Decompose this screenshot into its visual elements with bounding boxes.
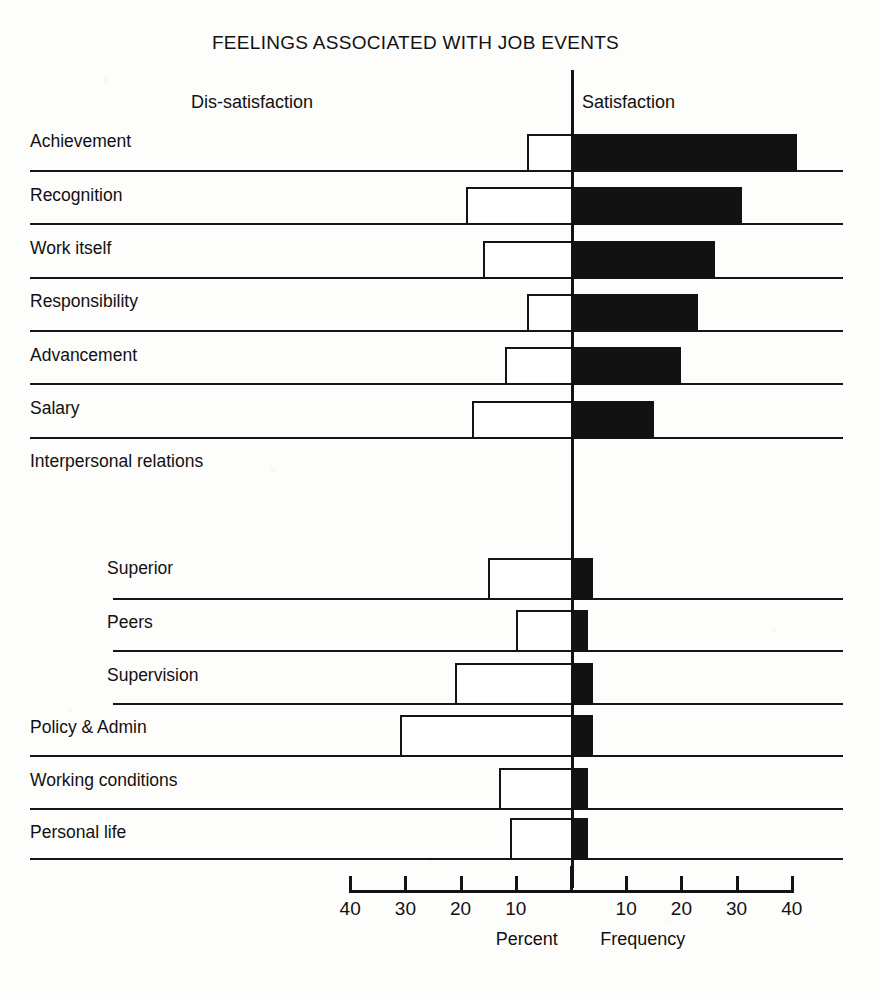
column-header-satisfaction: Satisfaction	[582, 92, 675, 113]
bar-dissatisfaction	[466, 187, 574, 225]
row-separator	[30, 808, 843, 810]
axis-tick-label: 40	[330, 898, 370, 920]
row-separator	[30, 437, 843, 439]
bar-dissatisfaction	[527, 294, 574, 332]
bar-satisfaction	[571, 294, 698, 332]
axis-tick-label: 40	[772, 898, 812, 920]
row-label-advancement: Advancement	[30, 345, 137, 366]
row-label-personal-life: Personal life	[30, 822, 126, 843]
axis-tick-label: 20	[441, 898, 481, 920]
bar-satisfaction	[571, 187, 742, 225]
bar-dissatisfaction	[455, 663, 574, 705]
bar-dissatisfaction	[510, 818, 574, 860]
axis-tick	[515, 876, 518, 893]
axis-tick-label: 10	[496, 898, 536, 920]
axis-tick	[625, 876, 628, 893]
x-axis-label-right: Frequency	[563, 929, 723, 950]
row-separator	[30, 277, 843, 279]
bar-satisfaction	[571, 347, 681, 385]
axis-tick	[349, 876, 352, 893]
bar-satisfaction	[571, 401, 654, 439]
bar-satisfaction	[571, 134, 797, 172]
bar-dissatisfaction	[505, 347, 574, 385]
axis-tick	[460, 876, 463, 893]
axis-tick	[680, 876, 683, 893]
row-label-achievement: Achievement	[30, 131, 131, 152]
bar-satisfaction	[571, 558, 593, 600]
bar-satisfaction	[571, 663, 593, 705]
axis-tick-label: 30	[385, 898, 425, 920]
row-separator	[30, 858, 843, 860]
axis-tick-label: 30	[717, 898, 757, 920]
axis-tick-label: 10	[606, 898, 646, 920]
bar-satisfaction	[571, 241, 715, 279]
axis-tick	[791, 876, 794, 893]
axis-tick-label: 20	[661, 898, 701, 920]
column-header-dissatisfaction: Dis-satisfaction	[191, 92, 313, 113]
chart-page: FEELINGS ASSOCIATED WITH JOB EVENTS Dis-…	[0, 0, 879, 1000]
axis-tick	[570, 866, 573, 893]
bar-dissatisfaction	[400, 715, 574, 757]
row-separator	[30, 330, 843, 332]
row-label-superior: Superior	[107, 558, 173, 579]
bar-dissatisfaction	[483, 241, 574, 279]
row-separator	[30, 383, 843, 385]
bar-dissatisfaction	[488, 558, 574, 600]
row-label-salary: Salary	[30, 398, 80, 419]
row-label-recognition: Recognition	[30, 185, 122, 206]
row-separator	[113, 598, 843, 600]
bar-dissatisfaction	[472, 401, 574, 439]
bar-dissatisfaction	[516, 610, 574, 652]
row-label-supervision: Supervision	[107, 665, 198, 686]
axis-tick	[736, 876, 739, 893]
bar-satisfaction	[571, 715, 593, 757]
row-label-work-itself: Work itself	[30, 238, 111, 259]
axis-tick	[404, 876, 407, 893]
bar-satisfaction	[571, 610, 588, 652]
row-label-responsibility: Responsibility	[30, 291, 138, 312]
bar-dissatisfaction	[527, 134, 574, 172]
bar-dissatisfaction	[499, 768, 574, 810]
bar-satisfaction	[571, 768, 588, 810]
page-title: FEELINGS ASSOCIATED WITH JOB EVENTS	[0, 32, 879, 54]
row-label-peers: Peers	[107, 612, 153, 633]
row-separator	[113, 650, 843, 652]
row-label-interpersonal-relations: Interpersonal relations	[30, 451, 203, 472]
chart-title-text: FEELINGS ASSOCIATED WITH JOB EVENTS	[212, 32, 619, 53]
bar-satisfaction	[571, 818, 588, 860]
row-label-working-conditions: Working conditions	[30, 770, 178, 791]
row-label-policy-admin: Policy & Admin	[30, 717, 147, 738]
